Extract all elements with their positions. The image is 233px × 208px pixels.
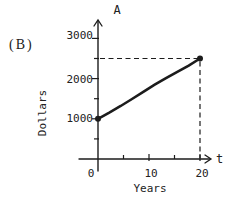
x-axis-symbol: t xyxy=(216,152,223,166)
x-axis-title: Years xyxy=(133,182,166,195)
y-tick-label-1000: 1000 xyxy=(67,112,94,125)
x-tick-label-10: 10 xyxy=(144,167,157,180)
axes xyxy=(79,20,211,171)
y-tick-label-2000: 2000 xyxy=(67,73,94,86)
y-axis-symbol: A xyxy=(113,3,121,17)
y-axis-title: Dollars xyxy=(36,90,49,136)
data-series xyxy=(98,59,200,119)
line-chart: A t 1000 2000 3000 0 10 20 Years Dollars xyxy=(0,0,233,208)
figure-panel: (B) A t 1000 2000 3000 0 10 20 Years Dol… xyxy=(0,0,233,208)
x-tick-label-0: 0 xyxy=(88,167,95,180)
y-tick-label-3000: 3000 xyxy=(67,29,94,42)
x-tick-label-20: 20 xyxy=(195,167,208,180)
x-ticks xyxy=(124,154,201,161)
